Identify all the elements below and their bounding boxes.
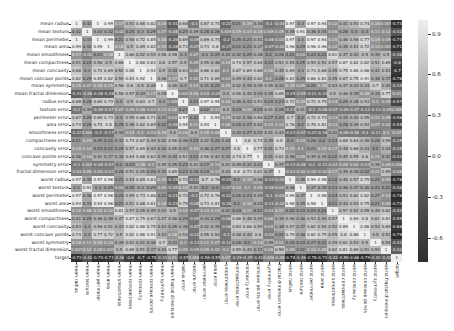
x-axis-label: mean smoothness xyxy=(117,264,122,306)
y-axis-label: area error xyxy=(46,121,69,129)
x-axis-label: mean concave points xyxy=(149,264,154,313)
x-axis-label: mean symmetry xyxy=(160,264,165,302)
x-axis-label: mean compactness xyxy=(128,264,133,309)
y-axis-label: worst concave points xyxy=(20,231,69,239)
x-tick-mark xyxy=(183,262,184,264)
colorbar-tick-label: -0.3 xyxy=(432,194,443,200)
y-axis-label: mean perimeter xyxy=(32,36,69,44)
colorbar-tick-label: 0.9 xyxy=(432,31,441,37)
x-axis-label: mean perimeter xyxy=(96,264,101,301)
x-axis-label: mean radius xyxy=(74,264,79,293)
x-tick-mark xyxy=(87,262,88,264)
colorbar-tick-mark xyxy=(428,34,431,35)
x-axis-label: mean texture xyxy=(85,264,90,295)
x-axis-label: worst concave points xyxy=(363,264,368,313)
y-axis-label: worst radius xyxy=(41,176,69,184)
x-axis-label: radius error xyxy=(181,264,186,291)
y-axis-label: worst symmetry xyxy=(32,239,69,247)
x-tick-mark xyxy=(375,262,376,264)
y-axis-label: mean smoothness xyxy=(27,51,69,59)
x-axis-label: mean area xyxy=(106,264,111,289)
y-axis-label: compactness error xyxy=(26,137,69,145)
y-axis-label: mean compactness xyxy=(24,59,69,67)
x-axis-label: target xyxy=(395,264,400,278)
x-tick-mark xyxy=(215,262,216,264)
y-axis-label: worst smoothness xyxy=(27,207,69,215)
y-axis-label: mean concave points xyxy=(20,75,69,83)
x-tick-mark xyxy=(140,262,141,264)
y-axis-label: mean fractal dimension xyxy=(15,90,69,98)
y-axis-label: texture error xyxy=(40,106,69,114)
colorbar-tick-label: 0.6 xyxy=(432,71,441,77)
colorbar-tick-mark xyxy=(428,115,431,116)
colorbar-tick-label: 0.3 xyxy=(432,112,441,118)
colorbar-tick-mark xyxy=(428,197,431,198)
x-tick-mark xyxy=(343,262,344,264)
x-tick-mark xyxy=(119,262,120,264)
x-tick-mark xyxy=(204,262,205,264)
y-axis-label: worst concavity xyxy=(33,223,69,231)
x-axis-label: worst compactness xyxy=(341,264,346,309)
x-axis-label: area error xyxy=(213,264,218,287)
x-tick-mark xyxy=(322,262,323,264)
x-axis-label: worst smoothness xyxy=(331,264,336,306)
x-axis-label: worst texture xyxy=(299,264,304,295)
x-tick-mark xyxy=(194,262,195,264)
x-tick-mark xyxy=(269,262,270,264)
y-axis-label: target xyxy=(55,254,69,262)
x-tick-mark xyxy=(386,262,387,264)
x-tick-mark xyxy=(172,262,173,264)
y-axis-label: symmetry error xyxy=(33,161,69,169)
y-axis-label: worst texture xyxy=(38,184,69,192)
x-tick-mark xyxy=(279,262,280,264)
x-tick-mark xyxy=(247,262,248,264)
y-axis-label: perimeter error xyxy=(34,114,69,122)
x-tick-mark xyxy=(311,262,312,264)
x-tick-mark xyxy=(258,262,259,264)
x-tick-mark xyxy=(365,262,366,264)
x-axis-label: smoothness error xyxy=(224,264,229,304)
x-tick-mark xyxy=(301,262,302,264)
colorbar-tick-mark xyxy=(428,156,431,157)
y-axis-label: concavity error xyxy=(34,145,69,153)
y-axis-label: mean radius xyxy=(40,20,69,28)
x-axis-label: mean concavity xyxy=(138,264,143,301)
x-axis-label: symmetry error xyxy=(267,264,272,300)
x-tick-mark xyxy=(226,262,227,264)
x-tick-mark xyxy=(108,262,109,264)
colorbar-tick-mark xyxy=(428,74,431,75)
colorbar xyxy=(418,20,428,262)
colorbar-tick-mark xyxy=(428,238,431,239)
x-tick-mark xyxy=(76,262,77,264)
x-tick-mark xyxy=(237,262,238,264)
x-axis-label: worst radius xyxy=(288,264,293,292)
x-axis-label: worst perimeter xyxy=(309,264,314,301)
x-axis-label: mean fractal dimension xyxy=(170,264,175,318)
x-tick-mark xyxy=(130,262,131,264)
y-axis-label: mean symmetry xyxy=(31,82,69,90)
x-axis-label: perimeter error xyxy=(202,264,207,299)
x-axis-label: worst symmetry xyxy=(373,264,378,301)
x-axis-label: compactness error xyxy=(235,264,240,307)
x-tick-mark xyxy=(354,262,355,264)
y-axis-label: smoothness error xyxy=(29,129,69,137)
x-tick-mark xyxy=(397,262,398,264)
x-axis-label: concave points error xyxy=(256,264,261,311)
y-axis-label: fractal dimension error xyxy=(16,168,69,176)
colorbar-tick-label: -0.6 xyxy=(432,235,443,241)
heatmap-grid: 10.3210.990.170.510.680.820.15-0.310.68-… xyxy=(71,20,402,262)
y-axis-label: radius error xyxy=(42,98,69,106)
x-axis-label: worst area xyxy=(320,264,325,288)
x-tick-mark xyxy=(162,262,163,264)
x-axis-label: worst fractal dimension xyxy=(384,264,389,318)
colorbar-tick-label: 0.0 xyxy=(432,153,441,159)
x-tick-mark xyxy=(151,262,152,264)
x-tick-mark xyxy=(98,262,99,264)
y-axis-label: worst compactness xyxy=(24,215,69,223)
x-axis-label: worst concavity xyxy=(352,264,357,300)
y-axis-label: concave points error xyxy=(22,153,69,161)
x-tick-mark xyxy=(333,262,334,264)
y-axis-label: mean texture xyxy=(38,28,69,36)
y-axis-label: worst fractal dimension xyxy=(15,246,69,254)
x-axis-label: texture error xyxy=(192,264,197,293)
